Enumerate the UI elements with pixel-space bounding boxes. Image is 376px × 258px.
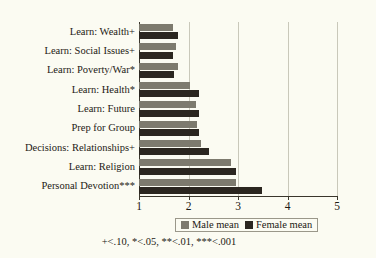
bar-group: Personal Devotion***	[139, 177, 337, 196]
bar-male	[139, 159, 231, 166]
category-label: Personal Devotion***	[41, 181, 135, 192]
bar-group: Learn: Wealth+	[139, 22, 337, 41]
significance-footnote: +<.10, *<.05, **<.01, ***<.001	[0, 236, 376, 247]
category-label: Learn: Social Issues+	[45, 46, 135, 57]
bar-female	[139, 90, 199, 97]
bar-group: Decisions: Relationships+	[139, 138, 337, 157]
bar-female	[139, 148, 209, 155]
bar-group: Prep for Group	[139, 119, 337, 138]
bar-female	[139, 129, 199, 136]
legend-label-female: Female mean	[256, 220, 312, 231]
category-label: Learn: Health*	[72, 85, 135, 96]
legend-swatch-male-icon	[181, 221, 189, 229]
bar-male	[139, 82, 190, 89]
bar-male	[139, 63, 178, 70]
tick-label-3: 3	[227, 200, 249, 212]
chart-legend: Male mean Female mean	[175, 218, 318, 232]
legend-swatch-female-icon	[245, 221, 253, 229]
category-label: Prep for Group	[71, 123, 135, 134]
tick-label-2: 2	[178, 200, 200, 212]
bar-group: Learn: Poverty/War*	[139, 61, 337, 80]
plot-area: Learn: Wealth+Learn: Social Issues+Learn…	[139, 22, 337, 196]
gridline-5	[337, 22, 338, 196]
bar-group: Learn: Future	[139, 99, 337, 118]
bar-male	[139, 121, 197, 128]
bar-chart: Learn: Wealth+Learn: Social Issues+Learn…	[0, 0, 376, 258]
bar-female	[139, 32, 178, 39]
bar-group: Learn: Health*	[139, 80, 337, 99]
bar-male	[139, 24, 173, 31]
bar-male	[139, 43, 176, 50]
bar-male	[139, 140, 201, 147]
category-label: Learn: Future	[78, 104, 135, 115]
bar-female	[139, 110, 199, 117]
bar-group: Learn: Social Issues+	[139, 41, 337, 60]
category-label: Decisions: Relationships+	[25, 143, 135, 154]
category-label: Learn: Poverty/War*	[47, 65, 135, 76]
legend-item-male[interactable]: Male mean	[181, 220, 239, 231]
bar-female	[139, 52, 173, 59]
bar-group: Learn: Religion	[139, 157, 337, 176]
bar-female	[139, 71, 174, 78]
legend-label-male: Male mean	[192, 220, 239, 231]
tick-label-5: 5	[326, 200, 348, 212]
tick-label-4: 4	[277, 200, 299, 212]
category-label: Learn: Religion	[69, 162, 135, 173]
bar-female	[139, 187, 262, 194]
legend-item-female[interactable]: Female mean	[245, 220, 312, 231]
category-label: Learn: Wealth+	[70, 27, 135, 38]
bar-female	[139, 168, 236, 175]
bar-male	[139, 101, 196, 108]
tick-label-1: 1	[128, 200, 150, 212]
bar-male	[139, 179, 236, 186]
